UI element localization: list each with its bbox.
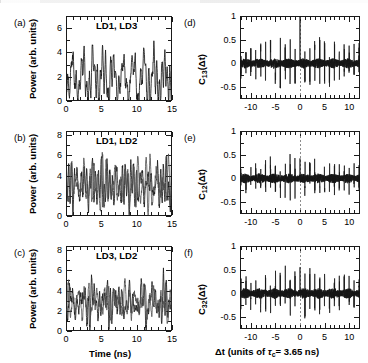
xtick-label-f: -10 bbox=[238, 332, 264, 342]
figure-canvas: (a)0246051015Power (arb. units)LD1, LD3(… bbox=[0, 0, 368, 363]
xlabel-f: Δt (units of τc= 3.65 ns) bbox=[215, 346, 319, 357]
xtick-label-f: 10 bbox=[336, 332, 362, 342]
xtick-label-f: 0 bbox=[287, 332, 313, 342]
xtick-label-f: -5 bbox=[262, 332, 288, 342]
trace bbox=[240, 266, 360, 319]
panel-f: (f)10.50-0.5-10-50510C32(Δt)Δt (units of… bbox=[0, 0, 368, 363]
ytick-label-f: 0 bbox=[210, 288, 236, 298]
plot-canvas-f bbox=[0, 0, 368, 363]
ytick-label-f: 1 bbox=[210, 241, 236, 251]
ytick-label-f: 0.5 bbox=[210, 265, 236, 275]
ytick-label-f: -0.5 bbox=[210, 312, 236, 322]
ylabel-f: C32(Δt) bbox=[196, 284, 207, 315]
data-traces-f bbox=[240, 266, 360, 319]
xtick-label-f: 5 bbox=[312, 332, 338, 342]
